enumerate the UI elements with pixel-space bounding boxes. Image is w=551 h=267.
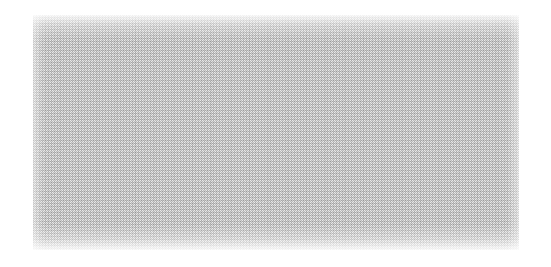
blank-content-panel: [33, 15, 519, 250]
panel-edge-feather: [33, 15, 519, 250]
page-canvas: [0, 0, 551, 267]
